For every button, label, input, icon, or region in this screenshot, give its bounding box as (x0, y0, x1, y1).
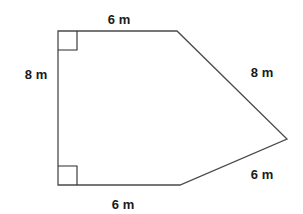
label-left-side: 8 m (25, 67, 47, 82)
pentagon-outline (58, 31, 287, 185)
label-lower-right-side: 6 m (251, 167, 273, 182)
label-upper-right-side: 8 m (251, 65, 273, 80)
right-angle-marker-top-left (58, 31, 77, 50)
label-top-side: 6 m (108, 12, 130, 27)
right-angle-marker-bottom-left (58, 166, 77, 185)
pentagon-diagram: 6 m 8 m 8 m 6 m 6 m (0, 0, 303, 214)
label-bottom-side: 6 m (112, 197, 134, 212)
